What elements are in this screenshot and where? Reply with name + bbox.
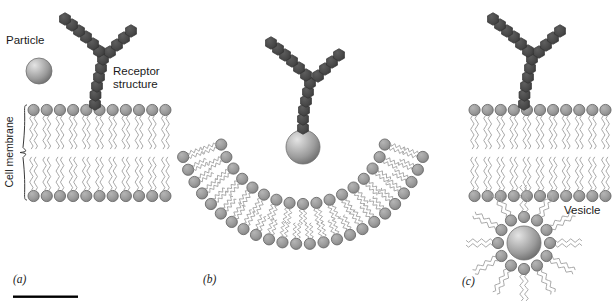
lipid-head xyxy=(496,250,507,261)
lipid-head xyxy=(226,216,237,227)
lipid-head xyxy=(107,104,118,115)
lipid-head xyxy=(417,151,428,162)
lipid-head xyxy=(291,238,302,249)
receptor-label-line1: Receptor xyxy=(113,65,160,77)
lipid-head xyxy=(587,190,598,201)
lipid-head xyxy=(147,190,158,201)
lipid-head xyxy=(496,224,507,235)
lipid-head xyxy=(469,104,480,115)
panel-label-a: (a) xyxy=(13,273,27,286)
lipid-head xyxy=(505,260,516,271)
lipid-head xyxy=(336,189,347,200)
particle-sphere-panel-b xyxy=(286,130,320,164)
lipid-head xyxy=(587,104,598,115)
lipid-head xyxy=(600,190,611,201)
lipid-head xyxy=(344,229,355,240)
receptor-subunit xyxy=(266,37,277,50)
receptor-subunit xyxy=(488,13,499,26)
lipid-head xyxy=(133,104,144,115)
lipid-head xyxy=(367,163,378,174)
lipid-head xyxy=(518,263,529,274)
lipid-head xyxy=(389,198,400,209)
lipid-head xyxy=(189,176,200,187)
lipid-head xyxy=(561,104,572,115)
endocytosis-figure: Particle Receptor structure Cell membran… xyxy=(0,0,612,304)
lipid-head xyxy=(561,190,572,201)
lipid-head xyxy=(547,104,558,115)
lipid-head xyxy=(247,182,258,193)
vesicle-label: Vesicle xyxy=(564,204,600,216)
lipid-head xyxy=(216,139,227,150)
lipid-head xyxy=(505,215,516,226)
panel-label-c: (c) xyxy=(462,275,475,288)
lipid-head xyxy=(357,223,368,234)
lipid-head xyxy=(518,211,529,222)
lipid-head xyxy=(41,104,52,115)
lipid-head xyxy=(263,234,274,245)
lipid-head xyxy=(215,208,226,219)
lipid-head xyxy=(133,190,144,201)
lipid-head xyxy=(54,104,65,115)
particle-label: Particle xyxy=(6,34,44,46)
lipid-head xyxy=(469,190,480,201)
figure-canvas: Particle Receptor structure Cell membran… xyxy=(0,0,612,304)
lipid-head xyxy=(311,197,322,208)
lipid-head xyxy=(68,104,79,115)
particle-sphere-panel-a xyxy=(26,58,52,84)
lipid-head xyxy=(284,197,295,208)
lipid-head xyxy=(541,224,552,235)
lipid-head xyxy=(160,190,171,201)
lipid-head xyxy=(237,173,248,184)
lipid-head xyxy=(28,104,39,115)
lipid-head xyxy=(238,223,249,234)
lipid-head xyxy=(482,190,493,201)
lipid-head xyxy=(205,198,216,209)
lipid-head xyxy=(28,190,39,201)
receptor-subunit xyxy=(555,25,566,38)
lipid-head xyxy=(304,238,315,249)
lipid-head xyxy=(544,237,555,248)
lipid-head xyxy=(228,163,239,174)
lipid-head xyxy=(380,208,391,219)
panel-label-b: (b) xyxy=(203,273,217,286)
lipid-head xyxy=(318,237,329,248)
lipid-head xyxy=(541,250,552,261)
lipid-head xyxy=(250,229,261,240)
lipid-head xyxy=(160,104,171,115)
lipid-head xyxy=(41,190,52,201)
lipid-head xyxy=(178,151,189,162)
lipid-head xyxy=(574,190,585,201)
lipid-head xyxy=(534,104,545,115)
lipid-head xyxy=(271,194,282,205)
lipid-head xyxy=(369,216,380,227)
lipid-head xyxy=(331,234,342,245)
lipid-head xyxy=(221,151,232,162)
lipid-head xyxy=(531,260,542,271)
lipid-head xyxy=(574,104,585,115)
lipid-head xyxy=(324,194,335,205)
receptor-label-line2: structure xyxy=(113,78,158,90)
lipid-head xyxy=(94,190,105,201)
lipid-head xyxy=(600,104,611,115)
receptor-subunit xyxy=(60,13,71,26)
lipid-head xyxy=(531,215,542,226)
scale-bar xyxy=(13,296,78,298)
receptor-subunit xyxy=(334,49,345,62)
cell-membrane-label: Cell membrane xyxy=(3,116,15,187)
lipid-head xyxy=(277,237,288,248)
lipid-head xyxy=(482,104,493,115)
lipid-head xyxy=(258,189,269,200)
lipid-head xyxy=(374,151,385,162)
particle-sphere-vesicle xyxy=(507,226,541,260)
lipid-head xyxy=(107,190,118,201)
lipid-head xyxy=(120,190,131,201)
lipid-head xyxy=(508,190,519,201)
lipid-head xyxy=(492,237,503,248)
lipid-head xyxy=(196,188,207,199)
lipid-head xyxy=(81,190,92,201)
lipid-head xyxy=(54,190,65,201)
lipid-head xyxy=(147,104,158,115)
lipid-head xyxy=(120,104,131,115)
lipid-head xyxy=(358,173,369,184)
lipid-head xyxy=(508,104,519,115)
